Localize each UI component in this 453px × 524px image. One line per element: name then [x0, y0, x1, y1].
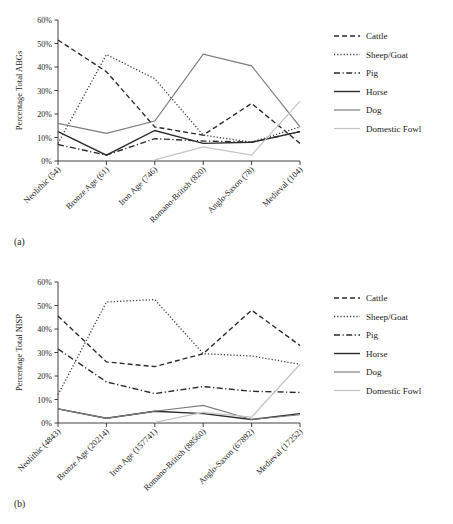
y-tick-label: 0%	[41, 157, 52, 166]
x-category-label: Medieval (17252)	[254, 426, 304, 476]
series-line	[58, 349, 300, 394]
panel-label: (b)	[14, 499, 25, 510]
series-line	[58, 40, 300, 143]
series-line	[58, 54, 300, 133]
y-tick-label: 10%	[37, 396, 52, 405]
legend-item-label[interactable]: Sheep/Goat	[366, 50, 408, 60]
legend-item-label[interactable]: Horse	[366, 87, 388, 97]
y-axis-title: Percentage Total ABGs	[14, 51, 24, 131]
y-axis-title: Percentage Total NISP	[14, 314, 24, 391]
figure-panel-a: 0%10%20%30%40%50%60%Percentage Total ABG…	[0, 0, 453, 262]
series-line	[58, 300, 300, 395]
y-tick-label: 20%	[37, 372, 52, 381]
y-tick-label: 60%	[37, 278, 52, 287]
y-tick-label: 50%	[37, 302, 52, 311]
y-tick-label: 40%	[37, 325, 52, 334]
y-tick-label: 30%	[37, 349, 52, 358]
legend-item-label[interactable]: Pig	[366, 68, 379, 78]
legend-item-label[interactable]: Horse	[366, 349, 388, 359]
chart-a-canvas: 0%10%20%30%40%50%60%Percentage Total ABG…	[0, 0, 453, 262]
chart-b-canvas: 0%10%20%30%40%50%60%Percentage Total NIS…	[0, 262, 453, 524]
x-category-label: Iron Age (157741)	[107, 426, 159, 478]
y-tick-label: 20%	[37, 110, 52, 119]
x-category-label: Bronze Age (61)	[64, 164, 111, 211]
y-tick-label: 30%	[37, 87, 52, 96]
series-line	[58, 132, 300, 156]
legend-item-label[interactable]: Dog	[366, 105, 382, 115]
x-category-label: Anglo-Saxon (78)	[205, 164, 256, 215]
y-tick-label: 40%	[37, 63, 52, 72]
x-category-label: Medieval (104)	[260, 164, 304, 208]
legend-item-label[interactable]: Sheep/Goat	[366, 312, 408, 322]
y-tick-label: 60%	[37, 16, 52, 25]
x-category-label: Bronze Age (20214)	[55, 426, 111, 482]
x-category-label: Neolithic (54)	[21, 164, 62, 205]
figure-panel-b: 0%10%20%30%40%50%60%Percentage Total NIS…	[0, 262, 453, 524]
panel-label: (a)	[14, 237, 25, 248]
legend-item-label[interactable]: Cattle	[366, 293, 388, 303]
x-category-label: Iron Age (746)	[116, 164, 159, 207]
legend-item-label[interactable]: Domestic Fowl	[366, 124, 422, 134]
legend-item-label[interactable]: Cattle	[366, 31, 388, 41]
legend-item-label[interactable]: Pig	[366, 330, 379, 340]
y-tick-label: 10%	[37, 134, 52, 143]
y-tick-label: 0%	[41, 419, 52, 428]
series-line	[58, 130, 300, 155]
series-line	[58, 310, 300, 366]
legend-item-label[interactable]: Dog	[366, 367, 382, 377]
y-tick-label: 50%	[37, 40, 52, 49]
legend-item-label[interactable]: Domestic Fowl	[366, 386, 422, 396]
series-line	[155, 364, 300, 422]
series-line	[58, 55, 300, 144]
x-category-label: Neolithic (4843)	[15, 426, 62, 473]
